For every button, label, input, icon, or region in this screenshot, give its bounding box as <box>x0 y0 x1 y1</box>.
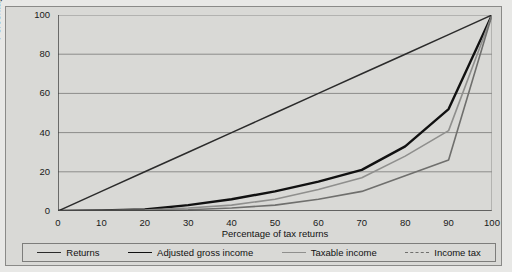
legend-item-label: Taxable income <box>311 247 377 258</box>
x-tick-label: 70 <box>347 218 377 228</box>
x-tick-label: 40 <box>217 218 247 228</box>
legend-line-swatch <box>128 252 152 253</box>
x-tick-label: 60 <box>303 218 333 228</box>
x-axis-title: Percentage of tax returns <box>58 228 492 239</box>
x-tick-label: 80 <box>390 218 420 228</box>
y-tick-label: 80 <box>16 49 50 59</box>
chart-figure: Percentage of personal income 1008060402… <box>0 0 512 272</box>
chart-plot-svg <box>58 15 492 211</box>
legend-item-label: Returns <box>66 247 99 258</box>
legend-line-swatch <box>282 252 306 253</box>
y-axis-title: Percentage of personal income <box>0 0 2 40</box>
chart-legend: ReturnsAdjusted gross incomeTaxable inco… <box>22 243 496 262</box>
legend-item-label: Adjusted gross income <box>157 247 253 258</box>
y-tick-label: 0 <box>16 206 50 216</box>
legend-line-swatch <box>405 252 429 253</box>
legend-item-2[interactable]: Taxable income <box>282 247 377 258</box>
x-tick-label: 0 <box>43 218 73 228</box>
x-tick-label: 100 <box>477 218 507 228</box>
x-tick-label: 30 <box>173 218 203 228</box>
x-tick-label: 90 <box>434 218 464 228</box>
y-tick-label: 100 <box>16 10 50 20</box>
legend-item-label: Income tax <box>434 247 480 258</box>
legend-item-1[interactable]: Adjusted gross income <box>128 247 253 258</box>
y-tick-label: 20 <box>16 167 50 177</box>
y-tick-label: 40 <box>16 128 50 138</box>
legend-line-swatch <box>37 252 61 253</box>
legend-item-3[interactable]: Income tax <box>405 247 480 258</box>
y-tick-label: 60 <box>16 88 50 98</box>
x-tick-label: 20 <box>130 218 160 228</box>
legend-item-0[interactable]: Returns <box>37 247 99 258</box>
plot-area <box>58 15 492 211</box>
x-tick-label: 10 <box>86 218 116 228</box>
x-tick-label: 50 <box>260 218 290 228</box>
